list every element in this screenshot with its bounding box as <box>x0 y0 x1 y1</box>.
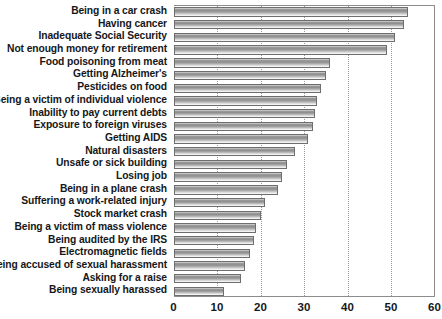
bar <box>174 172 283 181</box>
bar-row <box>174 6 435 19</box>
bar-row <box>174 196 435 209</box>
x-tick-label: 30 <box>298 301 311 313</box>
category-label: Getting Alzheimer's <box>73 68 167 81</box>
bar <box>174 7 409 16</box>
bar-row <box>174 133 435 146</box>
category-label: Asking for a raise <box>82 272 167 285</box>
category-label: Food poisoning from meat <box>40 56 167 69</box>
x-tick-label: 50 <box>385 301 398 313</box>
bar-row <box>174 285 435 298</box>
bar <box>174 109 315 118</box>
bar <box>174 84 322 93</box>
bar-row <box>174 273 435 286</box>
category-label: Being a victim of mass violence <box>14 221 167 234</box>
x-axis-tick-labels: 0102030405060 <box>0 297 442 319</box>
bar-row <box>174 95 435 108</box>
category-label: Being in a car crash <box>71 5 167 18</box>
horizontal-bar-chart: Being in a car crashHaving cancerInadequ… <box>0 0 442 319</box>
bar <box>174 33 396 42</box>
bar <box>174 147 296 156</box>
category-label: Pesticides on food <box>77 81 167 94</box>
bar <box>174 58 331 67</box>
bar-row <box>174 171 435 184</box>
category-label: Being audited by the IRS <box>48 234 167 247</box>
category-label: Suffering a work-related injury <box>21 195 167 208</box>
bar-row <box>174 19 435 32</box>
bar-row <box>174 146 435 159</box>
bar <box>174 223 257 232</box>
bar <box>174 160 287 169</box>
bar-row <box>174 82 435 95</box>
bar <box>174 198 265 207</box>
bar-row <box>174 31 435 44</box>
bar <box>174 236 254 245</box>
bar-row <box>174 44 435 57</box>
category-label: Being accused of sexual harassment <box>0 259 167 272</box>
category-label: Losing job <box>116 170 167 183</box>
bar <box>174 122 313 131</box>
bar-row <box>174 69 435 82</box>
category-label: Not enough money for retirement <box>7 43 167 56</box>
x-tick-label: 10 <box>211 301 224 313</box>
bar <box>174 185 278 194</box>
bar-row <box>174 247 435 260</box>
category-label: Inability to pay current debts <box>29 107 167 120</box>
category-label: Electromagnetic fields <box>59 246 167 259</box>
bar <box>174 261 246 270</box>
x-tick-label: 40 <box>341 301 354 313</box>
category-label: Having cancer <box>98 18 167 31</box>
category-label: Exposure to foreign viruses <box>34 119 167 132</box>
category-label: Being sexually harassed <box>49 284 167 297</box>
bar <box>174 134 309 143</box>
bar-row <box>174 222 435 235</box>
bar <box>174 45 387 54</box>
category-label: Getting AIDS <box>105 132 167 145</box>
bar-row <box>174 209 435 222</box>
bar <box>174 71 326 80</box>
bar-row <box>174 235 435 248</box>
category-label: Stock market crash <box>74 208 167 221</box>
bar <box>174 287 224 296</box>
bar <box>174 249 250 258</box>
bar <box>174 20 405 29</box>
category-label: Natural disasters <box>85 145 167 158</box>
bar-row <box>174 108 435 121</box>
bar-row <box>174 158 435 171</box>
x-tick-label: 20 <box>254 301 267 313</box>
category-label: Being in a plane crash <box>60 183 167 196</box>
bar-row <box>174 57 435 70</box>
plot-area <box>174 5 435 297</box>
bar-row <box>174 260 435 273</box>
bar-row <box>174 184 435 197</box>
category-label: Inadequate Social Security <box>39 30 167 43</box>
bar <box>174 274 241 283</box>
category-axis-labels: Being in a car crashHaving cancerInadequ… <box>0 5 170 297</box>
category-label: Being a victim of individual violence <box>0 94 167 107</box>
x-tick-label: 0 <box>170 301 176 313</box>
bar <box>174 211 261 220</box>
bar-row <box>174 120 435 133</box>
category-label: Unsafe or sick building <box>56 157 167 170</box>
x-tick-label: 60 <box>428 301 441 313</box>
bar <box>174 96 318 105</box>
